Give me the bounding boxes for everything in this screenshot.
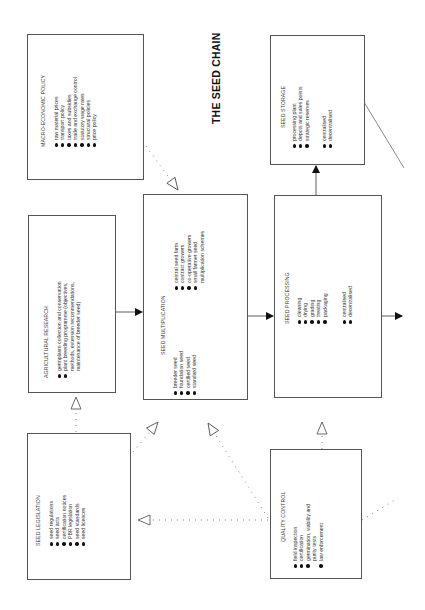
arrow-quality-to-multiplication bbox=[208, 423, 268, 518]
legislation-items: seed regulations seed acts certification… bbox=[48, 495, 86, 546]
box-title: SEED MULTIPLICATION bbox=[160, 295, 166, 355]
box-seed-processing: SEED PROCESSING cleaning drying grading … bbox=[274, 195, 382, 398]
storage-modes: centralised decentralised bbox=[321, 110, 334, 148]
arrow-macro-to-multiplication bbox=[146, 146, 178, 190]
diagram-title: THE SEED CHAIN bbox=[210, 33, 222, 124]
storage-outflow-line bbox=[364, 102, 404, 168]
box-seed-multiplication: SEED MULTIPLICATION breeder seed foundat… bbox=[143, 194, 248, 400]
storage-locations: processing plant depots and sales points… bbox=[291, 86, 310, 148]
list-item: law enforcement bbox=[318, 504, 324, 568]
box-quality-control: QUALITY CONTROL field inspection certifi… bbox=[270, 449, 362, 579]
processing-modes: centralised decentralised bbox=[341, 286, 354, 324]
list-item: price policy bbox=[91, 75, 97, 147]
list-item: multiplication schemes bbox=[199, 231, 205, 290]
box-seed-storage: SEED STORAGE processing plant depots and… bbox=[270, 35, 365, 165]
list-item: standard seed bbox=[191, 351, 197, 395]
box-title: MACRO-ECONOMIC POLICY bbox=[40, 75, 46, 147]
box-title: SEED STORAGE bbox=[280, 86, 286, 128]
multiplication-schemes: central seed farm contract growers co-op… bbox=[173, 231, 205, 290]
box-title: SEED LEGISLATION bbox=[35, 495, 41, 546]
multiplication-stages: breeder seed foundation seed certified s… bbox=[172, 351, 198, 395]
box-title: AGRICULTURAL RESEARCH bbox=[43, 281, 49, 378]
quality-items: field inspection certification germinati… bbox=[292, 504, 324, 568]
list-item: maintenance of breeder seed) bbox=[75, 281, 81, 378]
quality-outflow-dotted bbox=[362, 498, 398, 520]
research-items: germplasm collection and conservation pl… bbox=[56, 281, 82, 378]
list-item: strategic reserves bbox=[304, 86, 310, 148]
list-item: packaging bbox=[322, 293, 328, 324]
arrow-legislation-to-multiplication bbox=[133, 422, 158, 452]
box-agricultural-research: AGRICULTURAL RESEARCH germplasm collecti… bbox=[28, 215, 116, 393]
list-item: decentralised bbox=[347, 286, 353, 324]
box-title: SEED PROCESSING bbox=[284, 272, 290, 324]
box-macro-economic-policy: MACRO-ECONOMIC POLICY raw material price… bbox=[27, 34, 144, 180]
processing-steps: cleaning drying grading treating packagi… bbox=[296, 293, 328, 324]
box-title: QUALITY CONTROL bbox=[280, 492, 286, 542]
list-item: seed licences bbox=[80, 495, 86, 546]
box-seed-legislation: SEED LEGISLATION seed regulations seed a… bbox=[27, 433, 131, 580]
list-item: decentralised bbox=[327, 110, 333, 148]
macro-items: raw material prices transport policy tax… bbox=[53, 75, 98, 147]
